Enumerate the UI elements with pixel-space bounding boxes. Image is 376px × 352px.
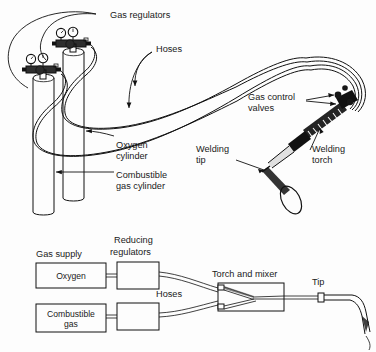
oxygen-cylinder-leader bbox=[86, 129, 114, 136]
combustible-box-label-line1: Combustible bbox=[47, 309, 95, 319]
connector-combustible-supply-to-regulator bbox=[106, 315, 117, 318]
label-reducing-regulators-line2: regulators bbox=[110, 247, 151, 257]
combustible-gas-supply-box: Combustible gas bbox=[36, 304, 106, 332]
welding-tip-leader bbox=[236, 160, 264, 173]
label-oxygen-cylinder-line1: Oxygen bbox=[116, 140, 148, 150]
hose-oxygen bbox=[62, 44, 307, 129]
label-gas-control-valves-line2: valves bbox=[248, 103, 274, 113]
label-combustible-cylinder-line2: gas cylinder bbox=[116, 181, 165, 191]
label-welding-tip-line1: Welding bbox=[196, 144, 229, 154]
torch-and-mixer-body bbox=[218, 283, 284, 311]
label-torch-and-mixer: Torch and mixer bbox=[212, 269, 277, 279]
torch-grip-knurl bbox=[303, 102, 347, 138]
label-hoses-lower: Hoses bbox=[156, 289, 182, 299]
schematic-tip bbox=[318, 293, 370, 350]
connector-oxygen-supply-to-regulator bbox=[106, 274, 117, 277]
welding-equipment-figure: Gas regulators Hoses Gas control valves … bbox=[0, 0, 376, 352]
schematic-hose-combustible bbox=[159, 301, 218, 317]
label-combustible-cylinder-line1: Combustible bbox=[116, 170, 167, 180]
label-gas-supply: Gas supply bbox=[36, 249, 82, 259]
reducing-regulator-box-oxygen bbox=[117, 262, 159, 289]
label-gas-control-valves-line1: Gas control bbox=[248, 92, 295, 102]
label-reducing-regulators-line1: Reducing bbox=[114, 235, 153, 245]
combustible-gas-cylinder-shape bbox=[33, 74, 54, 215]
lower-schematic-diagram: Oxygen Combustible gas bbox=[36, 235, 370, 350]
label-welding-tip-line2: tip bbox=[196, 155, 206, 165]
regulator-assembly-oxygen bbox=[52, 27, 91, 48]
label-gas-regulators: Gas regulators bbox=[110, 10, 171, 20]
oxygen-supply-box: Oxygen bbox=[36, 263, 106, 288]
welding-tip-flame bbox=[262, 167, 306, 217]
label-tip: Tip bbox=[312, 277, 324, 287]
oxygen-box-label: Oxygen bbox=[56, 271, 86, 281]
label-oxygen-cylinder-line2: cylinder bbox=[116, 151, 148, 161]
gas-control-valves-leader bbox=[306, 93, 336, 106]
hoses-leader-upper bbox=[127, 52, 152, 108]
label-welding-torch-line2: torch bbox=[312, 155, 332, 165]
combustible-box-label-line2: gas bbox=[64, 319, 78, 329]
regulator-assembly-combustible bbox=[22, 53, 61, 74]
combustible-cylinder-leader bbox=[56, 170, 114, 174]
reducing-regulator-box-combustible bbox=[117, 303, 159, 330]
schematic-torch-neck bbox=[284, 296, 318, 299]
label-welding-torch-line1: Welding bbox=[312, 144, 345, 154]
label-hoses-upper: Hoses bbox=[156, 44, 182, 54]
upper-pictorial-diagram: Gas regulators Hoses Gas control valves … bbox=[8, 10, 365, 217]
